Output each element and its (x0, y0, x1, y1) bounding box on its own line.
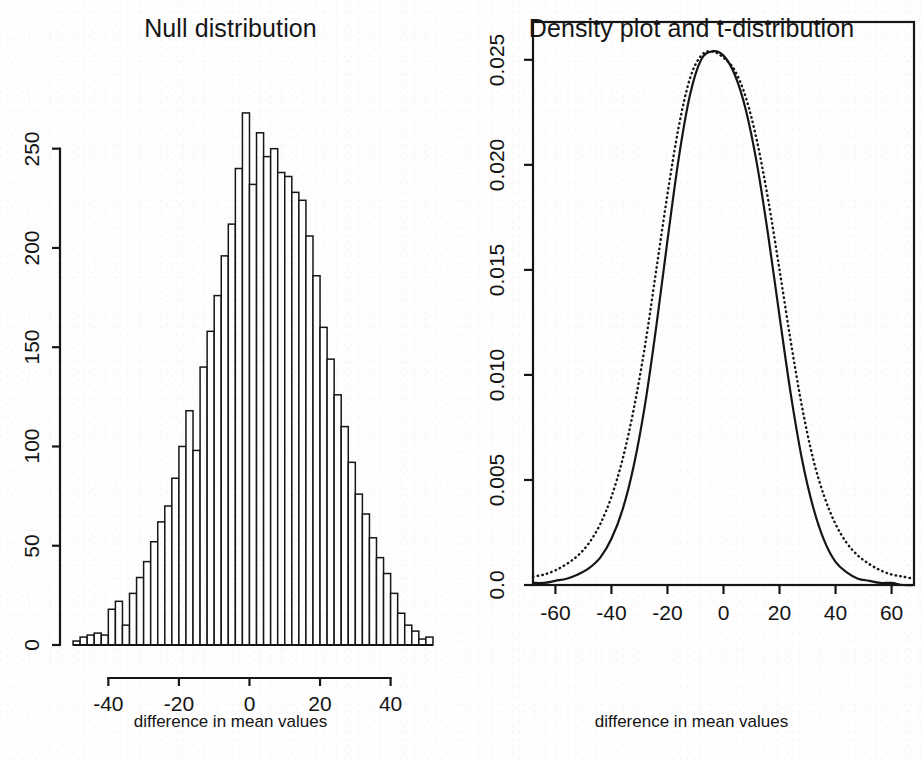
ytick-label-right-5: 0.025 (485, 34, 509, 87)
ytick-label-right-4: 0.020 (485, 139, 509, 192)
xtick-label-right-0: -60 (540, 601, 570, 625)
xtick-label-left-0: -40 (93, 692, 123, 716)
ytick-label-right-1: 0.005 (485, 454, 509, 507)
xtick-label-left-2: 0 (244, 692, 256, 716)
ytick-label-left-5: 250 (20, 131, 44, 166)
xtick-label-left-3: 20 (308, 692, 331, 716)
xtick-label-right-4: 20 (768, 601, 791, 625)
xtick-label-left-1: -20 (164, 692, 194, 716)
panel-null-distribution: Null distribution difference in mean val… (0, 0, 461, 760)
panel-right-xaxis-label: difference in mean values (461, 712, 922, 732)
xtick-label-left-4: 40 (379, 692, 402, 716)
density-tdistribution-plot (461, 0, 922, 760)
ytick-label-right-0: 0.0 (485, 570, 509, 599)
null-distribution-plot (0, 0, 461, 760)
curve-t-distribution (533, 51, 914, 578)
ytick-label-left-3: 150 (20, 330, 44, 365)
curve-density (533, 51, 914, 585)
ytick-label-right-3: 0.015 (485, 244, 509, 297)
panel-density-tdistribution: Density plot and t-distribution differen… (461, 0, 922, 760)
figure-canvas: Null distribution difference in mean val… (0, 0, 922, 760)
xtick-label-right-6: 60 (880, 601, 903, 625)
xtick-label-right-5: 40 (824, 601, 847, 625)
xtick-label-right-1: -40 (596, 601, 626, 625)
ytick-label-left-0: 0 (20, 639, 44, 651)
xtick-label-right-3: 0 (718, 601, 730, 625)
ytick-label-left-2: 100 (20, 429, 44, 464)
ytick-label-left-4: 200 (20, 230, 44, 265)
xtick-label-right-2: -20 (652, 601, 682, 625)
ytick-label-right-2: 0.010 (485, 349, 509, 402)
ytick-label-left-1: 50 (20, 534, 44, 557)
